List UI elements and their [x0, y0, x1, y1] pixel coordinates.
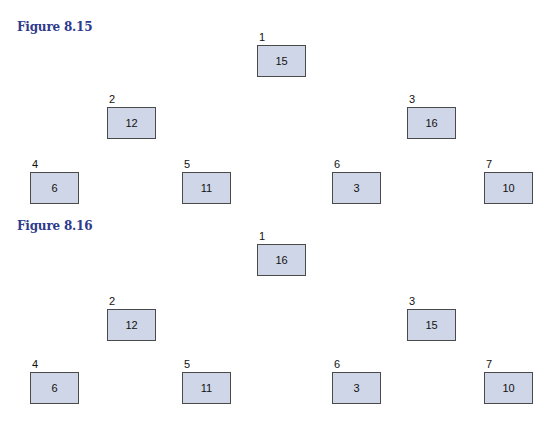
node-index: 1 — [259, 230, 265, 242]
node-index: 3 — [409, 295, 415, 307]
node-index: 6 — [334, 358, 340, 370]
node-value-box: 10 — [484, 372, 533, 404]
tree-node-4: 4 6 — [30, 372, 79, 404]
tree-node-2: 2 12 — [107, 107, 156, 139]
node-index: 5 — [184, 158, 190, 170]
node-index: 7 — [486, 158, 492, 170]
figure-title: Figure 8.15 — [17, 20, 92, 34]
tree-node-3: 3 16 — [407, 107, 456, 139]
node-index: 3 — [409, 93, 415, 105]
tree-node-3: 3 15 — [407, 309, 456, 341]
node-index: 2 — [109, 93, 115, 105]
node-index: 2 — [109, 295, 115, 307]
figure-8-15: Figure 8.15 1 15 2 12 3 16 4 6 5 11 6 3 … — [0, 0, 550, 215]
node-index: 1 — [259, 31, 265, 43]
tree-node-7: 7 10 — [484, 372, 533, 404]
node-index: 5 — [184, 358, 190, 370]
node-index: 7 — [486, 358, 492, 370]
tree-node-2: 2 12 — [107, 309, 156, 341]
tree-node-1: 1 16 — [257, 244, 306, 276]
figure-title: Figure 8.16 — [17, 219, 92, 233]
node-value-box: 16 — [257, 244, 306, 276]
node-value-box: 11 — [182, 372, 231, 404]
node-value-box: 12 — [107, 309, 156, 341]
node-value-box: 12 — [107, 107, 156, 139]
node-index: 4 — [32, 158, 38, 170]
node-index: 4 — [32, 358, 38, 370]
tree-node-6: 6 3 — [332, 372, 381, 404]
node-value-box: 3 — [332, 372, 381, 404]
node-value-box: 15 — [407, 309, 456, 341]
tree-node-1: 1 15 — [257, 45, 306, 77]
node-value-box: 16 — [407, 107, 456, 139]
node-index: 6 — [334, 158, 340, 170]
node-value-box: 15 — [257, 45, 306, 77]
figure-8-16: Figure 8.16 1 16 2 12 3 15 4 6 5 11 6 3 … — [0, 199, 550, 414]
node-value-box: 6 — [30, 372, 79, 404]
tree-node-5: 5 11 — [182, 372, 231, 404]
